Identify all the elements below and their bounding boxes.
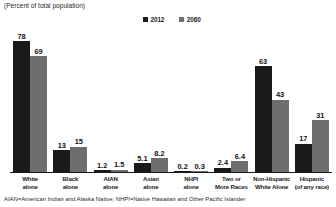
bar-item: 43	[272, 28, 289, 172]
bar-value-label: 0.2	[177, 162, 187, 171]
bar-item: 31	[312, 28, 329, 172]
category-label: Hispanic(of any race)	[292, 175, 332, 190]
bar-item: 63	[255, 28, 272, 172]
bar-groups: 786913151.21.55.18.20.20.32.46.463431731	[10, 28, 332, 172]
category-label-line: alone	[171, 183, 211, 191]
legend-label-2060: 2060	[187, 16, 201, 23]
bar-item: 1.2	[94, 28, 111, 172]
bar-group: 1.21.5	[91, 28, 131, 172]
category-label-line: Two or	[211, 175, 251, 183]
bar-item: 15	[70, 28, 87, 172]
category-label-line: (of any race)	[292, 183, 332, 191]
bar-value-label: 31	[316, 111, 324, 120]
category-label: Whitealone	[10, 175, 50, 190]
category-label-line: Hispanic	[292, 175, 332, 183]
category-label-line: White	[10, 175, 50, 183]
bar-item: 1.5	[111, 28, 128, 172]
bar-value-label: 0.3	[194, 162, 204, 171]
bar-value-label: 17	[299, 134, 307, 143]
bar	[30, 56, 47, 172]
bar	[295, 144, 312, 172]
bar-item: 6.4	[231, 28, 248, 172]
bar-value-label: 6.4	[235, 152, 245, 161]
category-label: Asianalone	[131, 175, 171, 190]
bar	[53, 150, 70, 172]
category-labels: WhitealoneBlackaloneAIANaloneAsianaloneN…	[10, 175, 332, 190]
bar-group: 5.18.2	[131, 28, 171, 172]
category-label-line: NHPI	[171, 175, 211, 183]
bar-value-label: 78	[18, 32, 26, 41]
bar	[312, 120, 329, 172]
bar-item: 13	[53, 28, 70, 172]
category-label: Non-HispanicWhite Alone	[252, 175, 292, 190]
bar-value-label: 2.4	[218, 158, 228, 167]
bar-value-label: 15	[75, 137, 83, 146]
category-label: Blackalone	[50, 175, 90, 190]
category-label-line: Asian	[131, 175, 171, 183]
bar	[13, 41, 30, 172]
bar-group: 1731	[292, 28, 332, 172]
category-label: Two orMore Races	[211, 175, 251, 190]
bar-value-label: 69	[35, 47, 43, 56]
bar-value-label: 43	[276, 90, 284, 99]
bar-value-label: 1.5	[114, 160, 124, 169]
category-label-line: Non-Hispanic	[252, 175, 292, 183]
bar-value-label: 13	[58, 141, 66, 150]
bar-group: 2.46.4	[211, 28, 251, 172]
bar-item: 8.2	[151, 28, 168, 172]
bar-value-label: 63	[259, 57, 267, 66]
bar-item: 0.2	[174, 28, 191, 172]
bar-group: 1315	[50, 28, 90, 172]
chart-footnote: AIAN=American Indian and Alaska Native; …	[4, 196, 245, 202]
bar-item: 17	[295, 28, 312, 172]
bar-item: 0.3	[191, 28, 208, 172]
bar	[134, 163, 151, 172]
legend-label-2012: 2012	[151, 16, 165, 23]
bar-item: 2.4	[214, 28, 231, 172]
bar	[255, 66, 272, 172]
chart-title	[4, 0, 324, 1]
category-label-line: White Alone	[252, 183, 292, 191]
bar-value-label: 1.2	[97, 161, 107, 170]
chart-page: (Percent of total population) 2012 2060 …	[0, 0, 336, 207]
category-label-line: alone	[10, 183, 50, 191]
bar-group: 7869	[10, 28, 50, 172]
category-label: NHPIalone	[171, 175, 211, 190]
plot-area: 786913151.21.55.18.20.20.32.46.463431731	[10, 28, 332, 173]
legend-swatch-2012	[143, 17, 148, 22]
category-label-line: Black	[50, 175, 90, 183]
category-label-line: alone	[131, 183, 171, 191]
bar	[151, 158, 168, 172]
category-label: AIANalone	[91, 175, 131, 190]
x-axis-line	[10, 172, 332, 173]
category-label-line: AIAN	[91, 175, 131, 183]
bar-item: 5.1	[134, 28, 151, 172]
bar	[272, 100, 289, 172]
bar-group: 6343	[252, 28, 292, 172]
legend-item-2060: 2060	[179, 16, 200, 23]
legend-item-2012: 2012	[143, 16, 164, 23]
category-label-line: More Races	[211, 183, 251, 191]
bar-value-label: 8.2	[154, 149, 164, 158]
bar-group: 0.20.3	[171, 28, 211, 172]
category-label-line: alone	[91, 183, 131, 191]
legend-swatch-2060	[179, 17, 184, 22]
bar-item: 69	[30, 28, 47, 172]
category-label-line: alone	[50, 183, 90, 191]
bar-value-label: 5.1	[137, 154, 147, 163]
bar	[231, 161, 248, 172]
chart-subtitle: (Percent of total population)	[4, 2, 85, 9]
bar	[70, 147, 87, 172]
chart-legend: 2012 2060	[143, 16, 201, 23]
bar-item: 78	[13, 28, 30, 172]
